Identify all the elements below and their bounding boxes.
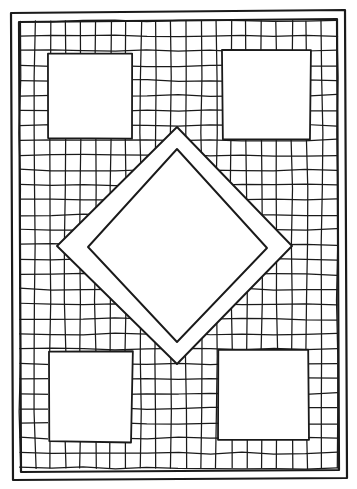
- corner-patch-bottom-left-fill: [48, 352, 132, 442]
- quilt-drawing: [0, 0, 357, 489]
- corner-patch-top-left-fill: [48, 54, 132, 139]
- quilt-coloring-page: [0, 0, 357, 489]
- corner-patch-top-right-fill: [222, 51, 310, 140]
- corner-patch-bottom-right-fill: [219, 350, 308, 440]
